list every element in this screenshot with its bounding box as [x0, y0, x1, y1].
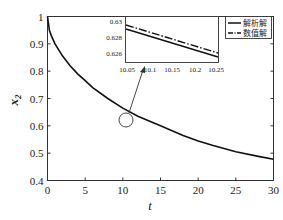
y-tick-label: 0.9 [30, 38, 44, 50]
zoom-marker-circle [119, 113, 133, 127]
y-tick-label: 0.4 [30, 175, 44, 187]
x-tick-label: 0 [45, 184, 51, 196]
y-tick-label: 0.5 [30, 147, 44, 159]
y-tick-label: 0.6 [30, 120, 44, 132]
svg-text:x2: x2 [6, 94, 23, 107]
zoom-arrow [129, 70, 143, 113]
inset-xtick: 10.25 [208, 66, 224, 74]
x-tick-label: 20 [193, 184, 205, 196]
x-tick-label: 10 [117, 184, 129, 196]
inset-chart: 0.63 0.628 0.626 10.05 10.1 10.15 10.2 1… [106, 17, 224, 75]
y-tick-label: 1 [38, 11, 44, 23]
y-tick-label: 0.7 [30, 93, 44, 105]
inset-ytick: 0.628 [106, 34, 122, 42]
inset-ytick: 0.626 [106, 50, 122, 58]
x-tick-label: 25 [230, 184, 242, 196]
inset-xtick: 10.1 [144, 66, 157, 74]
inset-xtick: 10.05 [119, 66, 135, 74]
inset-ytick: 0.63 [110, 18, 123, 26]
x-tick-label: 30 [268, 184, 280, 196]
inset-xtick: 10.15 [164, 66, 180, 74]
legend-label-numerical: 数值解 [243, 28, 267, 38]
inset-xtick: 10.2 [189, 66, 202, 74]
y-tick-label: 0.8 [30, 65, 44, 77]
line-chart: 0.40.50.60.70.80.91 051015202530 t x2 0.… [0, 0, 283, 220]
legend: 解析解 数值解 [226, 17, 272, 39]
x-tick-label: 15 [155, 184, 167, 196]
x-tick-label: 5 [82, 184, 88, 196]
legend-label-analytical: 解析解 [243, 18, 267, 28]
x-axis-label: t [148, 198, 152, 213]
y-axis-label: x2 [6, 94, 23, 107]
